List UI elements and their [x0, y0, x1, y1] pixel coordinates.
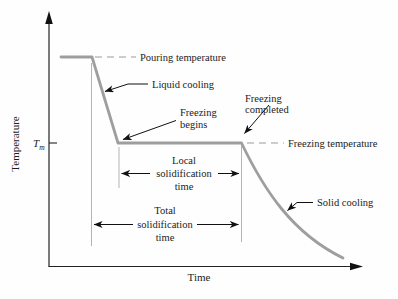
- y-axis-label: Temperature: [9, 116, 21, 172]
- x-axis: [48, 263, 363, 271]
- svg-text:solidification: solidification: [156, 168, 212, 179]
- solid-cooling-leader-arrow: [288, 203, 314, 211]
- svg-text:solidification: solidification: [137, 219, 193, 230]
- svg-text:Freezing: Freezing: [180, 107, 217, 118]
- svg-text:Total: Total: [154, 205, 176, 216]
- svg-text:begins: begins: [180, 119, 207, 130]
- diagram-canvas: Temperature Time Tm Pouring temperature …: [0, 0, 398, 299]
- freezing-begins-label: Freezing begins: [180, 107, 217, 130]
- svg-text:Freezing: Freezing: [245, 93, 282, 104]
- total-solidification-time-label: Total solidification time: [137, 205, 193, 243]
- svg-text:completed: completed: [245, 104, 289, 115]
- svg-text:Local: Local: [172, 155, 196, 166]
- freezing-begins-leader-arrow: [123, 121, 176, 140]
- liquid-cooling-label: Liquid cooling: [152, 79, 215, 90]
- svg-text:time: time: [175, 181, 194, 192]
- svg-text:time: time: [156, 232, 175, 243]
- tm-label: Tm: [33, 137, 45, 152]
- solid-cooling-label: Solid cooling: [317, 197, 374, 208]
- y-axis: [45, 11, 57, 267]
- x-axis-label: Time: [188, 271, 211, 283]
- pouring-temperature-label: Pouring temperature: [140, 52, 226, 63]
- liquid-cooling-leader-arrow: [105, 84, 148, 92]
- local-solidification-time-label: Local solidification time: [156, 155, 212, 192]
- freezing-completed-label: Freezing completed: [245, 93, 289, 115]
- cooling-curve-figure: Temperature Time Tm Pouring temperature …: [0, 0, 398, 299]
- x-axis-arrowhead: [350, 263, 363, 271]
- freezing-temperature-label: Freezing temperature: [288, 138, 378, 149]
- y-axis-arrowhead: [45, 11, 53, 24]
